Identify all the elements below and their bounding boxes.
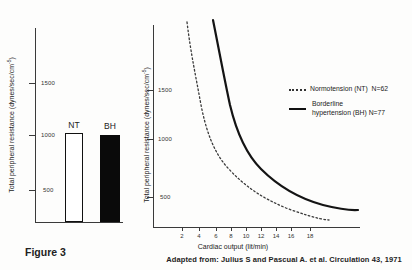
legend-label-borderline-line1: Borderline <box>312 100 343 109</box>
legend-label-normotension: Normotension (NT) N=62 <box>310 85 388 94</box>
legend-solid-line-icon <box>289 108 306 110</box>
curves-svg <box>0 0 412 270</box>
figure-canvas: Total peripheral resistance (dynes/sec/c… <box>0 0 412 270</box>
source-caption: Adapted from: Julius S and Pascual A. et… <box>158 255 410 264</box>
figure-label: Figure 3 <box>25 246 66 258</box>
curve-normotension-dotted <box>187 22 329 220</box>
legend-dotted-line-icon <box>289 89 306 91</box>
legend-label-borderline-line2: hypertension (BH) N=77 <box>312 109 385 118</box>
